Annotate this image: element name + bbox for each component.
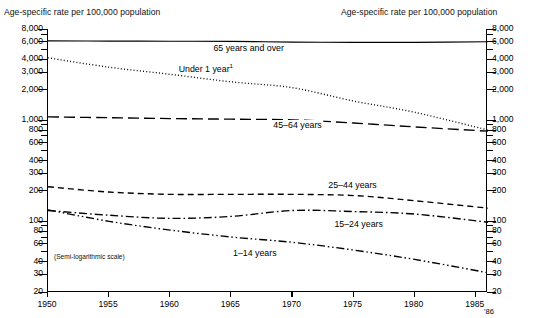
y-axis-label-right-800: 800 [492,125,506,134]
y-axis-label-left-4000: 4,000 [21,54,43,63]
y-axis-label-right-40: 40 [492,257,502,266]
x-tick-1985 [475,292,476,297]
x-axis-label-1965: 1965 [221,299,240,309]
series-line-under-1-year [48,58,488,130]
age-specific-rate-chart: Age-specific rate per 100,000 population… [0,0,534,318]
y-axis-label-right-80: 80 [492,226,502,235]
series-label-25-44-years: 25–44 years [327,180,378,190]
y-axis-label-left-6000: 6,000 [21,37,43,46]
y-axis-label-right-20: 20 [492,287,502,296]
y-axis-label-right-100: 100 [492,216,506,225]
y-axis-label-left-80: 80 [33,226,43,235]
y-axis-label-left-800: 800 [29,125,43,134]
y-axis-label-right-4000: 4,000 [492,54,514,63]
y-axis-label-left-300: 300 [29,168,43,177]
y-axis-label-right-600: 600 [492,138,506,147]
y-axis-label-left-20: 20 [33,287,43,296]
y-axis-label-left-400: 400 [29,156,43,165]
chart-title-left: Age-specific rate per 100,000 population [4,7,160,17]
x-axis-label-1955: 1955 [99,299,118,309]
y-axis-label-left-3000: 3,000 [21,67,43,76]
x-axis-end-label: '86 [484,307,494,316]
y-axis-label-left-8000: 8,000 [21,24,43,33]
x-axis-label-1980: 1980 [404,299,423,309]
series-line-45-64-years [48,117,488,131]
y-axis-label-left-60: 60 [33,239,43,248]
series-label-1-14-years: 1–14 years [232,248,279,258]
y-axis-label-left-100: 100 [29,216,43,225]
y-axis-label-right-200: 200 [492,186,506,195]
y-axis-label-left-1000: 1,000 [21,115,43,124]
series-label-65-years-and-over: 65 years and over [212,43,285,53]
footnote-marker: 1 [230,62,233,69]
y-axis-label-right-1000: 1,000 [492,115,514,124]
y-axis-label-left-200: 200 [29,186,43,195]
y-axis-label-right-300: 300 [492,168,506,177]
y-axis-label-right-2000: 2,000 [492,85,514,94]
x-axis-label-1960: 1960 [160,299,179,309]
x-tick-1960 [169,292,170,297]
x-tick-1970 [291,292,292,297]
semilog-scale-note: (Semi-logarithmic scale) [54,253,125,260]
y-axis-label-right-8000: 8,000 [492,24,514,33]
x-tick-1975 [353,292,354,297]
x-tick-1965 [230,292,231,297]
x-axis-label-1975: 1975 [343,299,362,309]
x-axis-label-1970: 1970 [282,299,301,309]
series-label-15-24-years: 15–24 years [333,219,384,229]
y-axis-label-right-3000: 3,000 [492,67,514,76]
x-tick-1950 [47,292,48,297]
chart-title-right: Age-specific rate per 100,000 population [341,7,497,17]
y-axis-label-left-600: 600 [29,138,43,147]
series-label-under-1-year: Under 1 year1 [177,64,234,74]
y-axis-label-left-40: 40 [33,257,43,266]
x-axis-label-1985: 1985 [465,299,484,309]
series-label-45-64-years: 45–64 years [272,120,323,130]
series-line-1-14-years [48,210,488,273]
y-axis-label-right-60: 60 [492,239,502,248]
series-line-15-24-years [48,210,488,222]
y-axis-label-right-30: 30 [492,269,502,278]
y-axis-label-left-2000: 2,000 [21,85,43,94]
y-axis-label-right-6000: 6,000 [492,37,514,46]
series-line-25-44-years [48,187,488,208]
x-axis-label-1950: 1950 [37,299,56,309]
x-tick-1980 [414,292,415,297]
y-axis-label-right-400: 400 [492,156,506,165]
x-tick-1955 [108,292,109,297]
y-axis-label-left-30: 30 [33,269,43,278]
